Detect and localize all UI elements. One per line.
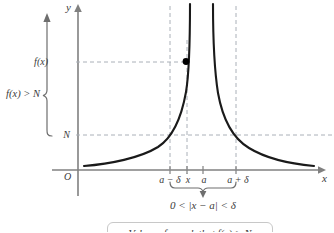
- caption-box: Values of x such that f(x) > N: [107, 222, 273, 232]
- annotation-delta-interval: 0 < |x − a| < δ: [170, 200, 236, 211]
- marked-point: [183, 58, 190, 65]
- x-axis-label: x: [322, 173, 327, 184]
- x-tick-label-a-plus-delta: a + δ: [227, 175, 248, 185]
- y-axis-label: y: [66, 2, 71, 13]
- y-value-label-n: N: [63, 130, 70, 140]
- y-axis: [74, 4, 82, 196]
- curve-right-branch: [213, 4, 314, 166]
- figure-container: y x O f(x) N a − δ x a a + δ f(x) > N 0 …: [0, 0, 334, 232]
- y-value-label-fx: f(x): [34, 57, 48, 67]
- caption-text: Values of x such that f(x) > N: [129, 228, 252, 233]
- x-axis: [52, 166, 326, 174]
- origin-label: O: [64, 172, 71, 182]
- curve-left-branch: [84, 4, 190, 166]
- annotation-fx-greater-n: f(x) > N: [6, 89, 40, 100]
- x-tick-label-x: x: [186, 175, 190, 185]
- limit-diagram: [0, 0, 334, 232]
- vertical-brace-fx-greater-n: [43, 13, 52, 136]
- x-tick-label-a: a: [202, 175, 207, 185]
- x-tick-label-a-minus-delta: a − δ: [159, 175, 180, 185]
